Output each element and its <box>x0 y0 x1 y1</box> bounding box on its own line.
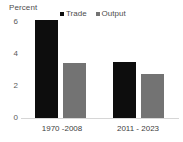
bar-group-1970-2008 <box>35 20 91 118</box>
bar-output-1970-2008[interactable] <box>63 63 86 118</box>
bar-group-2011-2023 <box>113 20 169 118</box>
y-tick-0: 0 <box>2 114 18 122</box>
legend-label-trade: Trade <box>66 10 87 18</box>
y-tick-6: 6 <box>2 18 18 26</box>
legend-item-trade[interactable]: Trade <box>60 10 87 18</box>
y-tick-4: 4 <box>2 50 18 58</box>
legend-swatch-trade-icon <box>60 12 64 16</box>
y-axis-ticks: 6 4 2 0 <box>0 0 18 142</box>
x-axis-line <box>21 118 179 119</box>
legend-label-output: Output <box>102 10 126 18</box>
bar-trade-2011-2023[interactable] <box>113 62 136 118</box>
bar-trade-1970-2008[interactable] <box>35 20 58 118</box>
legend-item-output[interactable]: Output <box>96 10 126 18</box>
bar-chart: Percent Trade Output 6 4 2 0 1970 -2008 … <box>0 0 183 142</box>
bar-output-2011-2023[interactable] <box>141 74 164 118</box>
legend-swatch-output-icon <box>96 12 100 16</box>
x-label-2011-2023: 2011 - 2023 <box>100 124 176 133</box>
x-label-1970-2008: 1970 -2008 <box>26 124 98 133</box>
y-tick-2: 2 <box>2 82 18 90</box>
chart-legend: Trade Output <box>60 10 126 18</box>
plot-area <box>21 20 179 118</box>
